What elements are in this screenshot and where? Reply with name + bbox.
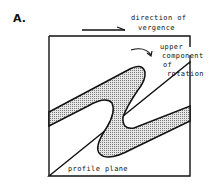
folded-layer <box>49 66 190 157</box>
fold-diagram <box>0 0 219 186</box>
rotation-label-line1: upper <box>160 44 183 51</box>
profile-plane-label: profile plane <box>68 166 128 173</box>
direction-label-line1: direction of <box>131 15 186 22</box>
rotation-label-line4: rotation <box>167 71 204 78</box>
direction-label-line2: vergence <box>138 25 175 32</box>
rotation-label-line3: of <box>163 62 172 69</box>
vergence-arrow-icon <box>82 27 125 30</box>
rotation-label-line2: component <box>162 53 204 60</box>
